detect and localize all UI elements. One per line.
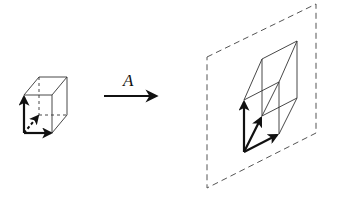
left-vector-depth	[24, 116, 38, 133]
map-label: A	[122, 71, 134, 90]
image-plane	[207, 4, 316, 188]
left-cube	[24, 77, 67, 133]
diagram-canvas: A	[0, 0, 337, 200]
map-arrow: A	[104, 71, 156, 96]
image-parallelepiped	[244, 41, 297, 134]
image-basis-vectors	[244, 102, 277, 152]
